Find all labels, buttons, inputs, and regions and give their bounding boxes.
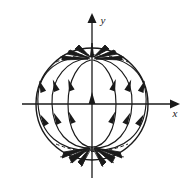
mid-left-streamline	[52, 58, 92, 148]
axis-arrow-icon	[89, 92, 96, 104]
phase-portrait-diagram: x y	[0, 0, 193, 191]
y-axis-label: y	[100, 14, 106, 26]
mid-right-lower-arrow-icon	[122, 113, 130, 125]
outer-left-upper-arrow-icon	[39, 80, 46, 93]
top-node-arrow-7-icon	[90, 43, 93, 57]
y-axis-arrow-icon	[88, 13, 97, 23]
figure-container: x y	[0, 0, 193, 191]
x-axis-label: x	[172, 107, 178, 119]
outer-right-upper-arrow-icon	[138, 80, 145, 93]
mid-left-lower-arrow-icon	[54, 113, 62, 125]
mid-right-streamline	[92, 58, 132, 148]
